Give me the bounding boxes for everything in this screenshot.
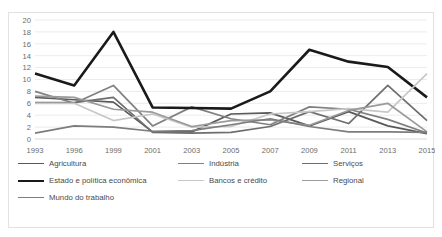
y-tick-label: 6 xyxy=(27,99,31,108)
y-tick-label: 18 xyxy=(23,28,31,37)
legend-item[interactable]: Indústria xyxy=(178,155,302,172)
x-tick-label: 2009 xyxy=(301,146,318,155)
legend-label: Bancos e crédito xyxy=(209,176,267,185)
x-tick-label: 2005 xyxy=(223,146,240,155)
data-series-lines xyxy=(35,32,427,134)
y-tick-label: 4 xyxy=(27,111,31,120)
legend-item[interactable]: Estado e política econômica xyxy=(18,172,178,189)
y-axis-tick-labels: 02468101214161820 xyxy=(23,16,31,144)
x-tick-label: 2001 xyxy=(144,146,161,155)
legend-item[interactable]: Mundo do trabalho xyxy=(18,189,178,206)
chart-container: 02468101214161820 1993199619992001200320… xyxy=(8,12,434,228)
legend-label: Serviços xyxy=(333,159,363,168)
legend-swatch-icon xyxy=(18,197,44,198)
y-tick-label: 14 xyxy=(23,52,31,61)
legend-swatch-icon xyxy=(18,180,44,182)
x-tick-label: 2007 xyxy=(262,146,279,155)
legend-label: Mundo do trabalho xyxy=(49,193,114,202)
legend-swatch-icon xyxy=(178,163,204,164)
legend-item[interactable]: Bancos e crédito xyxy=(178,172,302,189)
x-tick-label: 2011 xyxy=(340,146,356,155)
legend-label: Indústria xyxy=(209,159,239,168)
legend-swatch-icon xyxy=(178,180,204,181)
y-tick-label: 16 xyxy=(23,40,31,49)
x-tick-label: 2015 xyxy=(419,146,435,155)
y-tick-label: 8 xyxy=(27,87,31,96)
x-tick-label: 2013 xyxy=(379,146,396,155)
x-tick-label: 1999 xyxy=(105,146,122,155)
x-tick-label: 2003 xyxy=(183,146,200,155)
chart-legend: AgriculturaIndústriaServiçosEstado e pol… xyxy=(18,155,426,206)
legend-item[interactable]: Regional xyxy=(302,172,426,189)
legend-label: Agricultura xyxy=(49,159,86,168)
legend-item[interactable]: Agricultura xyxy=(18,155,178,172)
legend-swatch-icon xyxy=(302,180,328,181)
x-tick-label: 1996 xyxy=(66,146,83,155)
y-tick-label: 0 xyxy=(27,135,31,144)
x-axis-tick-labels: 1993199619992001200320052007200920112013… xyxy=(27,146,435,155)
y-tick-label: 2 xyxy=(27,123,31,132)
legend-item[interactable]: Serviços xyxy=(302,155,426,172)
legend-swatch-icon xyxy=(18,163,44,164)
y-tick-label: 20 xyxy=(23,16,31,25)
legend-label: Estado e política econômica xyxy=(49,176,147,185)
y-tick-label: 12 xyxy=(23,63,31,72)
x-tick-label: 1993 xyxy=(27,146,44,155)
legend-label: Regional xyxy=(333,176,364,185)
legend-swatch-icon xyxy=(302,163,328,164)
y-tick-label: 10 xyxy=(23,75,31,84)
